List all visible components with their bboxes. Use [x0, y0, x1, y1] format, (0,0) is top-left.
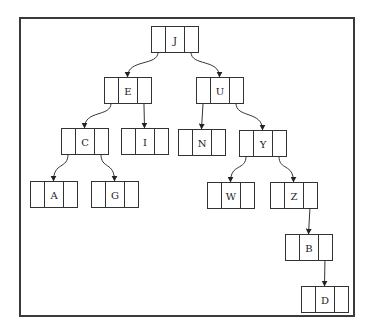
tree-node-w: W — [208, 183, 255, 209]
edge-y-to-w — [231, 156, 247, 182]
tree-node-c: C — [62, 129, 109, 155]
node-label: W — [226, 191, 237, 202]
node-label: U — [216, 86, 224, 97]
node-label: N — [198, 138, 207, 149]
edge-j-to-e — [128, 52, 159, 77]
tree-node-i: I — [122, 129, 169, 155]
edge-u-to-y — [236, 103, 263, 130]
tree-node-b: B — [286, 235, 333, 261]
node-label: I — [143, 137, 147, 148]
node-label: B — [305, 243, 312, 254]
tree-node-n: N — [179, 130, 226, 156]
edge-c-to-a — [54, 154, 69, 181]
nodes: JEUCINYAGWZBD — [31, 27, 349, 313]
tree-node-g: G — [92, 182, 139, 208]
edge-e-to-c — [85, 103, 112, 128]
node-label: E — [124, 86, 131, 97]
node-label: A — [49, 190, 58, 201]
tree-diagram: JEUCINYAGWZBD — [0, 0, 374, 332]
edge-u-to-n — [202, 103, 204, 129]
edge-c-to-g — [101, 154, 115, 181]
edges — [54, 52, 325, 286]
node-label: J — [172, 35, 177, 46]
node-label: Y — [259, 139, 267, 150]
edge-e-to-i — [144, 103, 145, 128]
node-label: D — [321, 295, 329, 306]
tree-node-y: Y — [240, 131, 287, 157]
tree-node-j: J — [152, 27, 199, 53]
edge-j-to-u — [191, 52, 220, 77]
tree-node-a: A — [31, 182, 78, 208]
tree-node-e: E — [105, 78, 152, 104]
edge-y-to-z — [279, 156, 294, 182]
node-label: C — [81, 137, 89, 148]
node-label: G — [111, 190, 119, 201]
node-label: Z — [291, 191, 298, 202]
edge-z-to-b — [309, 208, 310, 234]
tree-node-d: D — [302, 287, 349, 313]
tree-node-u: U — [197, 78, 244, 104]
tree-node-z: Z — [271, 183, 318, 209]
